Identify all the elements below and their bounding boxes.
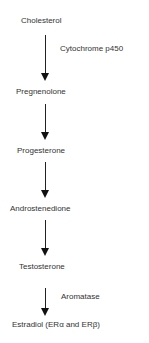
enzyme-label-cytochrome-p450: Cytochrome p450 bbox=[60, 44, 123, 54]
node-estradiol: Estradiol (ERα and ERβ) bbox=[12, 320, 100, 330]
enzyme-label-aromatase: Aromatase bbox=[61, 292, 100, 302]
arrow-androstenedione-to-testosterone bbox=[45, 220, 47, 256]
node-testosterone: Testosterone bbox=[19, 262, 65, 272]
arrow-pregnenolone-to-progesterone bbox=[45, 104, 47, 140]
node-cholesterol: Cholesterol bbox=[21, 16, 61, 26]
node-progesterone: Progesterone bbox=[17, 146, 65, 156]
arrow-progesterone-to-androstenedione bbox=[45, 162, 47, 198]
arrow-cholesterol-to-pregnenolone bbox=[45, 35, 47, 81]
node-androstenedione: Androstenedione bbox=[10, 204, 71, 214]
node-pregnenolone: Pregnenolone bbox=[16, 87, 66, 97]
arrow-testosterone-to-estradiol bbox=[45, 288, 47, 316]
